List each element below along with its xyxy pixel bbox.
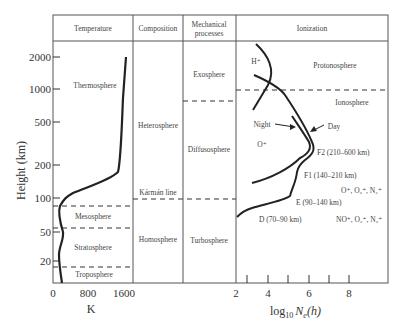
label-stratosphere: Stratosphere [74,243,112,252]
label-heterosphere: Heterosphere [138,121,179,130]
label-f1: F1 (140–210 km) [304,171,357,180]
y-tick-50: 50 [40,226,52,238]
y-tick-2000: 2000 [29,51,52,63]
header-ionization: Ionization [297,24,328,33]
x-tick-8: 8 [346,287,352,299]
label-thermosphere: Thermosphere [73,81,117,90]
header-temperature: Temperature [74,24,112,33]
atmosphere-diagram: Temperature Composition Mechanical proce… [0,0,402,332]
label-o-plus: O⁺ [257,140,266,149]
label-mesosphere: Mesosphere [75,212,112,221]
y-tick-200: 200 [35,159,52,171]
y-tick-1000: 1000 [29,83,52,95]
label-homosphere: Homosphere [139,235,178,244]
x-axis-label-log-ne: log10Ne(h) [270,304,321,320]
label-day: Day [328,122,341,131]
header-mechanical-1: Mechanical [192,20,227,29]
day-curve [237,75,314,217]
x-axis-label-kelvin: K [87,302,96,316]
label-diffusosphere: Diffusosphere [188,145,231,154]
label-turbosphere: Turbosphere [190,236,228,245]
header-composition: Composition [139,24,178,33]
header-mechanical-2: processes [195,29,224,38]
label-f2: F2 (210–600 km) [317,148,370,157]
label-e: E (90–140 km) [296,198,342,207]
x-tick-6: 6 [306,287,312,299]
y-tick-500: 500 [35,116,52,128]
y-tick-20: 20 [40,255,52,267]
label-ions-upper: O⁺, O₂⁺, N₂⁺ [341,186,382,195]
label-night: Night [253,120,271,129]
y-axis [53,57,60,261]
x-tick-1600: 1600 [113,287,136,299]
y-tick-100: 100 [35,192,52,204]
label-d: D (70–90 km) [259,215,302,224]
label-h-plus: H⁺ [251,57,260,66]
label-karman-line: Kármán line [139,188,177,197]
ionization-x-ticks [247,275,349,283]
label-protonosphere: Protonosphere [313,61,357,70]
label-troposphere: Troposphere [75,270,113,279]
x-tick-0: 0 [50,287,56,299]
x-tick-800: 800 [80,287,97,299]
h-plus-curve [253,44,271,110]
label-ionosphere: Ionosphere [335,98,369,107]
label-exosphere: Exosphere [193,70,225,79]
y-axis-label: Height (km) [14,141,28,200]
x-tick-4: 4 [265,287,271,299]
night-arrow-head [290,124,296,130]
label-ions-lower: NO⁺, O₂⁺, N₂⁺ [336,215,382,224]
x-tick-2: 2 [233,287,239,299]
